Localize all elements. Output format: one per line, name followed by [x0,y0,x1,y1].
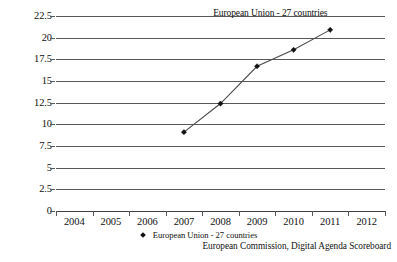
y-tick-mark [50,124,55,125]
data-point-marker [328,27,333,32]
x-tick-label: 2007 [166,216,203,228]
legend-entry-label: European Union - 27 countries [153,230,258,240]
series-line [184,30,330,132]
y-tick-mark [50,168,55,169]
x-tick-mark [239,211,240,216]
data-point-marker [291,47,296,52]
x-tick-mark [312,211,313,216]
x-tick-mark [348,211,349,216]
series-european-union-27-countries [56,16,385,211]
x-tick-label: 2004 [56,216,93,228]
y-tick-label: 10 [0,119,52,129]
y-tick-mark [50,211,55,212]
y-tick-mark [50,38,55,39]
x-tick-mark [275,211,276,216]
plot-area [56,16,385,211]
x-tick-label: 2005 [93,216,130,228]
y-tick-label: 5 [0,163,52,173]
x-tick-mark [202,211,203,216]
diamond-marker-icon [140,231,149,240]
y-tick-label: 20 [0,33,52,43]
x-tick-mark [166,211,167,216]
x-tick-mark [93,211,94,216]
x-tick-mark [129,211,130,216]
y-tick-label: 2.5 [0,184,52,194]
legend-entry: European Union - 27 countries [140,230,258,240]
annotation-label: European Union - 27 countries [213,8,327,19]
series-markers [181,27,332,134]
x-tick-label: 2008 [202,216,239,228]
gridline [56,211,385,212]
y-tick-mark [50,16,55,17]
y-tick-label: 12.5 [0,98,52,108]
x-tick-label: 2006 [129,216,166,228]
y-tick-mark [50,81,55,82]
y-tick-label: 15 [0,76,52,86]
x-tick-label: 2009 [239,216,276,228]
x-tick-label: 2011 [312,216,349,228]
y-tick-mark [50,146,55,147]
y-tick-mark [50,59,55,60]
x-tick-label: 2012 [348,216,385,228]
line-chart-figure: 02.557.51012.51517.52022.5 2004200520062… [0,0,397,262]
x-tick-label: 2010 [275,216,312,228]
y-tick-mark [50,189,55,190]
y-tick-label: 22.5 [0,11,52,21]
legend: European Union - 27 countries [0,230,397,240]
x-tick-mark [385,211,386,216]
x-tick-mark [56,211,57,216]
y-tick-label: 0 [0,206,52,216]
y-tick-mark [50,103,55,104]
source-note: European Commission, Digital Agenda Scor… [202,241,391,252]
y-tick-label: 7.5 [0,141,52,151]
y-tick-label: 17.5 [0,54,52,64]
